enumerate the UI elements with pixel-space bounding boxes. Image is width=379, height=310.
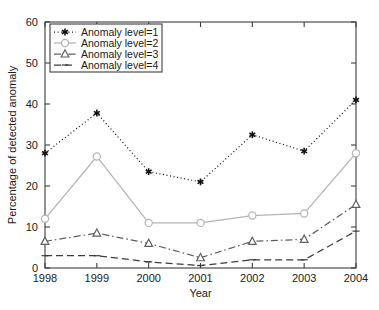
legend-sample-marker-2 xyxy=(61,39,68,46)
series-line-1 xyxy=(45,100,356,182)
series-marker-2 xyxy=(197,219,204,226)
series-marker-2 xyxy=(41,215,48,222)
line-chart-canvas: 0102030405060199819992000200120022003200… xyxy=(0,0,379,310)
x-tick-label: 2004 xyxy=(344,272,368,284)
series-marker-3 xyxy=(300,235,308,242)
series-line-3 xyxy=(45,204,356,257)
series-marker-2 xyxy=(249,212,256,219)
legend-label-4: Anomaly level=4 xyxy=(81,59,158,71)
y-tick-label: 10 xyxy=(26,221,38,233)
x-tick-label: 2002 xyxy=(240,272,264,284)
x-tick-label: 2001 xyxy=(188,272,212,284)
x-tick-label: 2000 xyxy=(136,272,160,284)
x-tick-label: 1998 xyxy=(33,272,57,284)
y-tick-label: 30 xyxy=(26,139,38,151)
series-marker-3 xyxy=(248,237,256,244)
series-marker-3 xyxy=(352,200,360,207)
series-marker-2 xyxy=(145,219,152,226)
x-tick-label: 1999 xyxy=(85,272,109,284)
y-tick-label: 40 xyxy=(26,98,38,110)
series-marker-2 xyxy=(301,210,308,217)
series-marker-3 xyxy=(93,229,101,236)
series-line-2 xyxy=(45,153,356,223)
series-marker-2 xyxy=(352,150,359,157)
y-tick-label: 60 xyxy=(26,16,38,28)
series-marker-2 xyxy=(93,153,100,160)
x-axis-title: Year xyxy=(189,287,212,299)
chart-figure: 0102030405060199819992000200120022003200… xyxy=(0,0,379,310)
y-axis-title: Percentage of detected anomaly xyxy=(6,65,18,224)
y-tick-label: 20 xyxy=(26,180,38,192)
y-tick-label: 50 xyxy=(26,57,38,69)
x-tick-label: 2003 xyxy=(292,272,316,284)
